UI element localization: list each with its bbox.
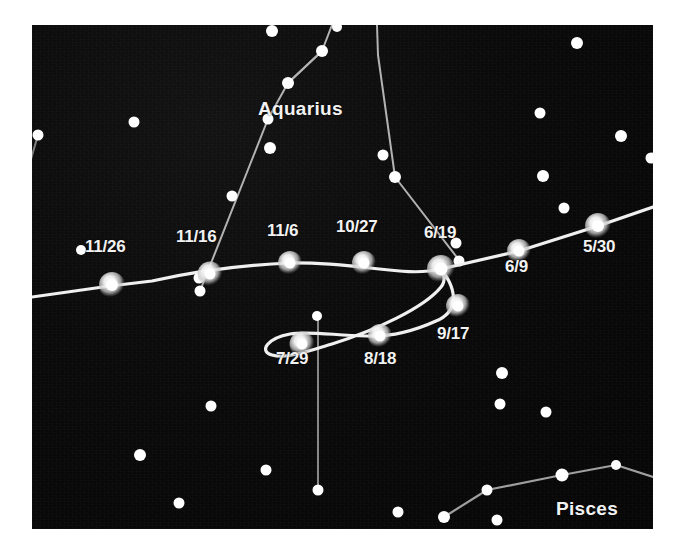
constellation-lines-left-edge — [32, 135, 38, 190]
star — [312, 311, 322, 321]
date-label-11-16: 11/16 — [176, 227, 217, 247]
date-label-11-26: 11/26 — [85, 237, 126, 257]
date-label-10-27: 10/27 — [336, 217, 378, 237]
constellation-lines-pisces — [444, 465, 653, 517]
background-stars — [76, 25, 653, 526]
constellation-label-aquarius: Aquarius — [258, 98, 343, 120]
star — [313, 485, 324, 496]
date-label-5-30: 5/30 — [583, 237, 615, 257]
date-label-11-6: 11/6 — [267, 221, 298, 241]
constellation-label-pisces: Pisces — [556, 498, 618, 520]
date-label-6-19: 6/19 — [424, 223, 456, 243]
star — [33, 130, 44, 141]
sky-field: Aquarius Pisces 11/26 11/16 11/6 10/27 6… — [32, 25, 653, 529]
date-label-8-18: 8/18 — [364, 349, 396, 369]
constellation-stars-aquarius — [195, 45, 465, 297]
star-chart-page: Aquarius Pisces 11/26 11/16 11/6 10/27 6… — [0, 0, 673, 554]
date-label-9-17: 9/17 — [437, 324, 469, 344]
date-label-6-9: 6/9 — [505, 257, 528, 277]
constellation-lines-aquarius — [200, 25, 459, 291]
date-label-7-29: 7/29 — [276, 349, 308, 369]
